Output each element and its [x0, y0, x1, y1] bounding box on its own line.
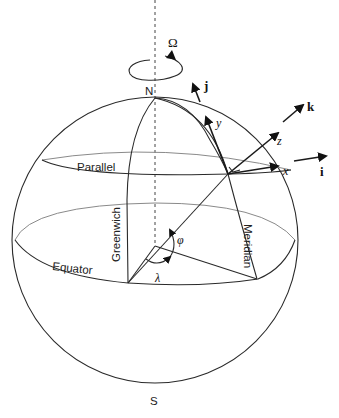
unit-i-label: i: [320, 164, 324, 179]
radius-to-point: [128, 174, 228, 283]
equator-label: Equator: [52, 260, 93, 276]
local-meridian-outer: [155, 98, 228, 174]
unit-k-label: k: [307, 99, 315, 114]
z-axis-label: z: [276, 134, 282, 148]
x-axis-label: x: [282, 164, 289, 178]
local-meridian: [155, 98, 257, 279]
unit-i-vector: [294, 156, 326, 161]
radius-to-meridian: [155, 246, 257, 279]
north-label: N: [145, 85, 153, 97]
unit-j-vector: [193, 84, 200, 102]
parallel-label: Parallel: [77, 161, 115, 173]
unit-j-label: j: [203, 78, 208, 93]
sphere-diagram: Ω N S Parallel Equator Greenwich Meridia…: [0, 0, 339, 418]
greenwich-meridian: [127, 98, 155, 283]
omega-label: Ω: [168, 35, 178, 50]
unit-k-vector: [283, 105, 303, 122]
radius-to-greenwich: [128, 246, 155, 283]
meridian-label: Meridian: [242, 224, 254, 268]
longitude-label: λ: [154, 271, 160, 285]
latitude-label: φ: [177, 233, 184, 247]
y-axis-label: y: [215, 116, 222, 130]
south-label: S: [150, 395, 158, 407]
greenwich-label: Greenwich: [110, 207, 122, 262]
